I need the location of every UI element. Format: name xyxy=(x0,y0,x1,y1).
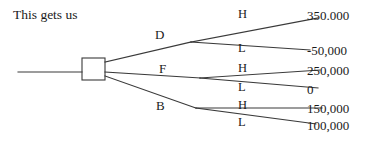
payoff-F-H: 250,000 xyxy=(307,64,349,77)
state-label-D-H: H xyxy=(238,8,247,21)
outcome-line-B-L xyxy=(196,108,316,124)
branch-line-F xyxy=(105,72,200,78)
outcome-line-F-H xyxy=(200,70,320,78)
state-label-D-L: L xyxy=(238,42,246,55)
branch-line-D xyxy=(105,42,191,62)
state-label-B-L: L xyxy=(238,116,246,129)
state-label-F-H: H xyxy=(238,62,247,75)
outcome-line-F-L xyxy=(200,78,318,88)
decision-tree-figure: This gets us D F B H L H L H L 350.000 -… xyxy=(0,0,380,145)
state-label-B-H: H xyxy=(238,99,247,112)
payoff-F-L: 0 xyxy=(307,83,314,96)
branch-label-D: D xyxy=(155,28,164,41)
figure-caption: This gets us xyxy=(13,8,78,22)
branch-label-F: F xyxy=(159,62,166,75)
decision-square-node xyxy=(82,58,105,80)
branch-label-B: B xyxy=(156,99,165,112)
outcome-line-D-L xyxy=(191,42,310,50)
branch-line-B xyxy=(105,76,196,108)
outcome-line-D-H xyxy=(191,18,318,42)
payoff-D-H: 350.000 xyxy=(307,9,349,22)
payoff-D-L: -50,000 xyxy=(307,44,347,57)
state-label-F-L: L xyxy=(238,81,246,94)
payoff-B-L: 100,000 xyxy=(307,119,349,132)
payoff-B-H: 150,000 xyxy=(307,102,349,115)
